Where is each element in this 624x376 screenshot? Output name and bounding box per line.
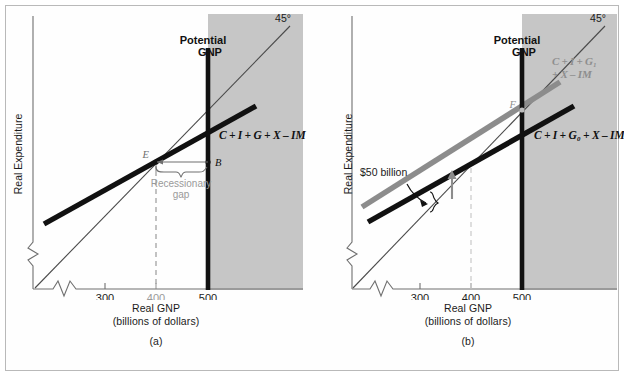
potential-gnp-label-line2-b: GNP: [512, 46, 536, 58]
y-axis-label-b: Real Expenditure: [342, 74, 354, 234]
fifty-billion-brace-b: [430, 192, 438, 212]
x-axis-caption-b: Real GNP (billions of dollars): [312, 302, 624, 328]
expenditure-label-new-line2-b: + X – IM: [552, 68, 593, 80]
y-axis-label-a: Real Expenditure: [12, 74, 24, 234]
x-axis-label-line2-b: (billions of dollars): [312, 315, 624, 328]
point-b-label: B: [215, 157, 222, 168]
recessionary-gap-label-line1: Recessionary: [151, 178, 212, 189]
panel-a-id: (a): [0, 335, 312, 347]
shaded-region-a: [208, 14, 303, 290]
potential-gnp-label-line1-a: Potential: [180, 34, 226, 46]
point-f-label: F: [509, 99, 517, 110]
forty-five-degree-label-a: 45°: [275, 12, 291, 24]
xtick-label-500-a: 500: [199, 292, 217, 300]
xtick-label-500-b: 500: [513, 292, 531, 300]
x-axis-caption-a: Real GNP (billions of dollars): [0, 302, 312, 328]
xtick-label-300-a: 300: [96, 292, 114, 300]
expenditure-label-a: C + I + G + X – IM: [219, 129, 306, 141]
panel-b-plot: 45° Potential GNP C + I + G₁ + X – IM C …: [312, 0, 624, 300]
panel-a-plot: 45° Potential GNP C + I + G + X – IM E B…: [0, 0, 312, 300]
forty-five-degree-label-b: 45°: [590, 12, 606, 24]
panel-a: 45° Potential GNP C + I + G + X – IM E B…: [0, 0, 312, 376]
x-axis-label-line1-a: Real GNP: [0, 302, 312, 315]
recessionary-gap-brace: [156, 167, 207, 177]
point-e-label: E: [142, 149, 150, 160]
xtick-label-400-b: 400: [462, 292, 480, 300]
y-axis-a: [28, 16, 38, 289]
point-f-marker: [519, 107, 524, 112]
panel-b: 45° Potential GNP C + I + G₁ + X – IM C …: [312, 0, 624, 376]
x-axis-label-line1-b: Real GNP: [312, 302, 624, 315]
fifty-billion-label-b: $50 billion: [360, 166, 407, 178]
expenditure-label-old-b: C + I + G₀ + X – IM: [534, 129, 624, 141]
xtick-label-300-b: 300: [411, 292, 429, 300]
xtick-label-400-a: 400: [147, 292, 165, 300]
panel-b-id: (b): [312, 335, 624, 347]
potential-gnp-label-line2-a: GNP: [198, 46, 222, 58]
fifty-billion-pointer-head-b: [420, 200, 428, 207]
x-axis-label-line2-a: (billions of dollars): [0, 315, 312, 328]
recessionary-gap-label-line2: gap: [173, 189, 190, 200]
potential-gnp-label-line1-b: Potential: [494, 34, 540, 46]
expenditure-label-new-line1-b: C + I + G₁: [552, 55, 597, 67]
figure-container: 45° Potential GNP C + I + G + X – IM E B…: [0, 0, 624, 376]
